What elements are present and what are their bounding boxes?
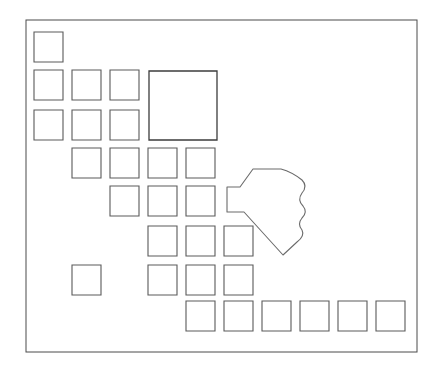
plot-r7-c2 [72, 265, 101, 295]
plot-r8-c10 [376, 301, 405, 331]
plot-r5-c3 [110, 186, 139, 216]
plot-r6-c4 [148, 226, 177, 256]
plot-r7-c4 [148, 265, 177, 295]
plot-r6-c5 [186, 226, 215, 256]
plot-r8-c5 [186, 301, 215, 331]
site-plan-svg [0, 0, 440, 368]
plot-r8-c9 [338, 301, 367, 331]
site-plan-figure [0, 0, 440, 368]
plot-r1-c1 [34, 32, 63, 62]
plots-group [34, 32, 405, 331]
plot-r7-c6 [224, 265, 253, 295]
pond-outline [227, 169, 305, 255]
plot-r3-c1 [34, 110, 63, 140]
plot-r2-c2 [72, 70, 101, 100]
plot-r6-c6 [224, 226, 253, 256]
plot-r2-c1 [34, 70, 63, 100]
plot-r4-c3 [110, 148, 139, 178]
plot-r8-c7 [262, 301, 291, 331]
plot-r8-c6 [224, 301, 253, 331]
plot-r5-c5 [186, 186, 215, 216]
plot-r4-c4 [148, 148, 177, 178]
plot-r8-c8 [300, 301, 329, 331]
plot-r4-c2 [72, 148, 101, 178]
plot-r2-big [149, 71, 217, 140]
plot-r5-c4 [148, 186, 177, 216]
plot-r2-c3 [110, 70, 139, 100]
plot-r3-c3 [110, 110, 139, 140]
plot-r3-c2 [72, 110, 101, 140]
plot-r7-c5 [186, 265, 215, 295]
plot-r4-c5 [186, 148, 215, 178]
